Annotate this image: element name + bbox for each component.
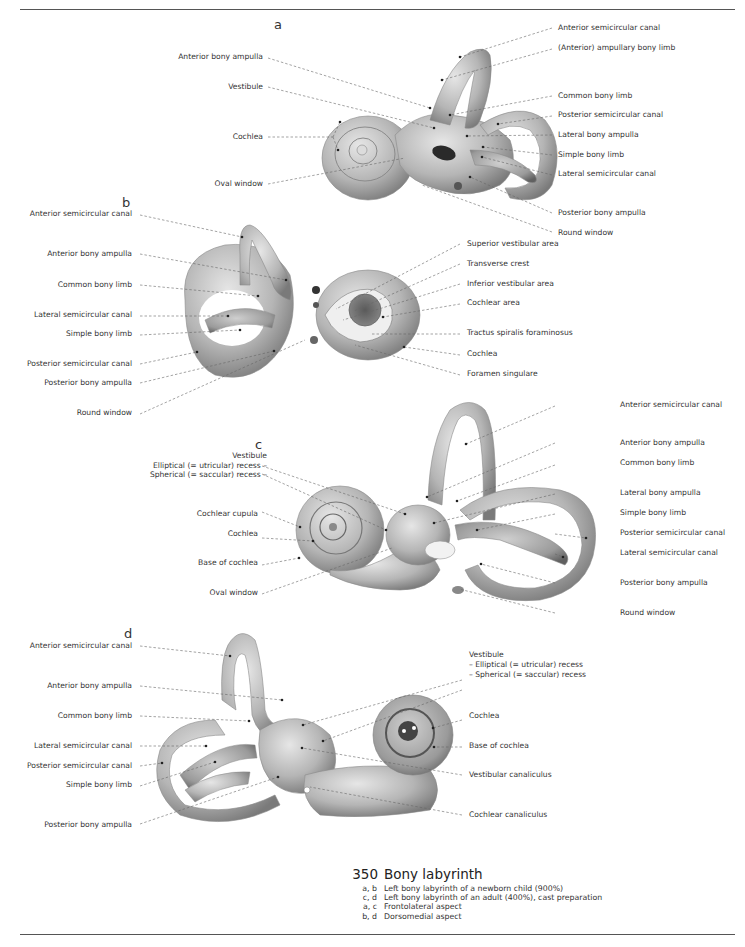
label-posterior-semicircular-canal: Posterior semicircular canal — [27, 359, 132, 368]
illustration-layer — [0, 0, 745, 947]
label-simple-bony-limb: Simple bony limb — [66, 780, 132, 789]
figure-caption: 350Bony labyrinth a, bLeft bony labyrint… — [384, 864, 602, 921]
label-round-window: Round window — [558, 228, 613, 237]
label-vestibule: Vestibule — [469, 650, 504, 659]
label-common-bony-limb: Common bony limb — [58, 280, 132, 289]
label-round-window: Round window — [77, 408, 132, 417]
label-posterior-bony-ampulla: Posterior bony ampulla — [44, 378, 132, 387]
label-common-bony-limb: Common bony limb — [620, 458, 694, 467]
panel-c-illustration — [296, 403, 596, 601]
label-common-bony-limb: Common bony limb — [558, 91, 632, 100]
label-base-of-cochlea: Base of cochlea — [469, 741, 529, 750]
panel-b-illustration — [185, 225, 421, 377]
panel-a-illustration — [322, 49, 557, 200]
label-transverse-crest: Transverse crest — [467, 259, 529, 268]
label-vestibule: Vestibule — [228, 82, 263, 91]
label-posterior-semicircular-canal: Posterior semicircular canal — [620, 528, 725, 537]
label-lateral-semicircular-canal: Lateral semicircular canal — [558, 169, 656, 178]
figure-number: 350 — [342, 866, 378, 882]
label-lateral-bony-ampulla: Lateral bony ampulla — [620, 488, 701, 497]
panel-d-letter: d — [124, 626, 132, 641]
label-lateral-semicircular-canal: Lateral semicircular canal — [34, 310, 132, 319]
panel-d-illustration — [157, 634, 453, 822]
figure-title: Bony labyrinth — [384, 866, 483, 882]
label-elliptical-recess: Elliptical (= utricular) recess – — [153, 461, 267, 470]
label-anterior-ampullary-bony-limb: (Anterior) ampullary bony limb — [558, 43, 675, 52]
label-anterior-bony-ampulla: Anterior bony ampulla — [178, 52, 263, 61]
label-anterior-semicircular-canal: Anterior semicircular canal — [30, 641, 132, 650]
label-round-window: Round window — [620, 608, 675, 617]
label-anterior-bony-ampulla: Anterior bony ampulla — [620, 438, 705, 447]
label-lateral-bony-ampulla: Lateral bony ampulla — [558, 130, 639, 139]
label-lateral-semicircular-canal: Lateral semicircular canal — [34, 741, 132, 750]
label-cochlea: Cochlea — [228, 529, 258, 538]
label-common-bony-limb: Common bony limb — [58, 711, 132, 720]
label-oval-window: Oval window — [215, 179, 263, 188]
label-foramen-singulare: Foramen singulare — [467, 369, 538, 378]
label-posterior-semicircular-canal: Posterior semicircular canal — [27, 761, 132, 770]
bottom-rule — [20, 934, 735, 935]
label-elliptical-recess: – Elliptical (= utricular) recess — [469, 660, 583, 669]
label-cochlear-cupula: Cochlear cupula — [197, 509, 258, 518]
caption-row: c, dLeft bony labyrinth of an adult (400… — [342, 893, 602, 902]
panel-a-letter: a — [274, 17, 282, 32]
label-anterior-semicircular-canal: Anterior semicircular canal — [558, 23, 660, 32]
label-anterior-bony-ampulla: Anterior bony ampulla — [47, 249, 132, 258]
label-cochlea: Cochlea — [467, 349, 497, 358]
label-posterior-bony-ampulla: Posterior bony ampulla — [558, 208, 646, 217]
caption-row: a, cFrontolateral aspect — [342, 902, 602, 911]
label-vestibule: Vestibule — [232, 451, 267, 460]
label-anterior-semicircular-canal: Anterior semicircular canal — [30, 209, 132, 218]
label-simple-bony-limb: Simple bony limb — [620, 508, 686, 517]
label-posterior-semicircular-canal: Posterior semicircular canal — [558, 110, 663, 119]
label-spherical-recess: Spherical (= saccular) recess – — [150, 470, 267, 479]
panel-c-letter: c — [255, 437, 262, 452]
label-cochlear-area: Cochlear area — [467, 298, 520, 307]
label-posterior-bony-ampulla: Posterior bony ampulla — [44, 820, 132, 829]
label-cochlea: Cochlea — [233, 132, 263, 141]
label-anterior-semicircular-canal: Anterior semicircular canal — [620, 400, 722, 409]
label-tractus-spiralis-foraminosus: Tractus spiralis foraminosus — [467, 328, 573, 337]
label-cochlear-canaliculus: Cochlear canaliculus — [469, 810, 547, 819]
label-anterior-bony-ampulla: Anterior bony ampulla — [47, 681, 132, 690]
label-superior-vestibular-area: Superior vestibular area — [467, 239, 559, 248]
label-simple-bony-limb: Simple bony limb — [558, 150, 624, 159]
caption-row: a, bLeft bony labyrinth of a newborn chi… — [342, 884, 602, 893]
label-base-of-cochlea: Base of cochlea — [198, 558, 258, 567]
panel-b-letter: b — [122, 195, 130, 210]
caption-row: b, dDorsomedial aspect — [342, 912, 602, 921]
label-oval-window: Oval window — [210, 588, 258, 597]
label-posterior-bony-ampulla: Posterior bony ampulla — [620, 578, 708, 587]
label-simple-bony-limb: Simple bony limb — [66, 329, 132, 338]
label-lateral-semicircular-canal: Lateral semicircular canal — [620, 548, 718, 557]
label-cochlea: Cochlea — [469, 711, 499, 720]
label-spherical-recess: – Spherical (= saccular) recess — [469, 670, 586, 679]
label-inferior-vestibular-area: Inferior vestibular area — [467, 279, 554, 288]
label-vestibular-canaliculus: Vestibular canaliculus — [469, 770, 552, 779]
